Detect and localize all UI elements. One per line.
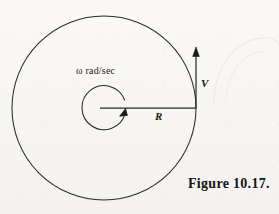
bleedthrough-artifact [214, 38, 279, 104]
radius-label: R [155, 111, 162, 122]
omega-symbol: ω [76, 65, 83, 76]
figure-caption: Figure 10.17. [188, 177, 270, 191]
velocity-label: V [201, 78, 208, 89]
angular-velocity-units: rad/sec [86, 65, 116, 76]
angular-velocity-label: ω rad/sec [76, 66, 115, 76]
figure-page: ω rad/sec R V Figure 10.17. [0, 0, 279, 214]
velocity-arrowhead [193, 47, 200, 57]
rotation-arrowhead [120, 109, 128, 117]
